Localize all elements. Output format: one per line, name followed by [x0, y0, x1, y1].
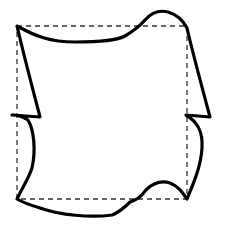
tessellation-diagram — [0, 0, 229, 233]
reference-square — [17, 26, 187, 199]
deformed-tile — [12, 11, 210, 216]
